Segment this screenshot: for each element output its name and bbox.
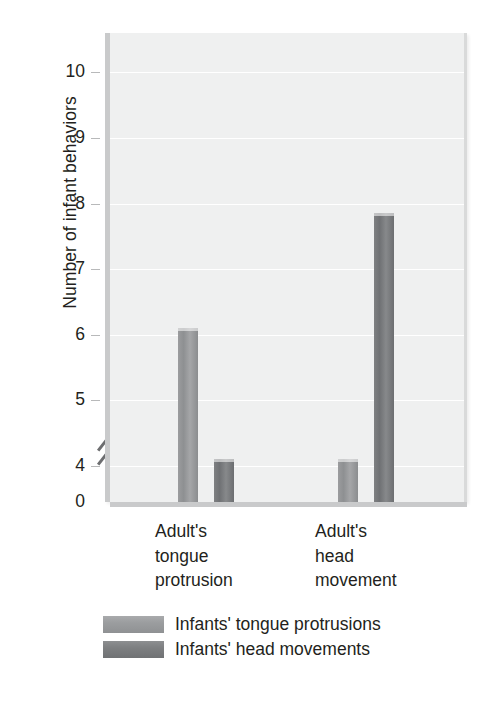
y-axis-tickmark (91, 269, 100, 270)
y-axis-tick-label: 5 (27, 389, 85, 410)
x-axis-group-label: Adult's head movement (315, 519, 397, 593)
bar (374, 213, 394, 502)
legend-label-series-b: Infants' head movements (175, 639, 370, 660)
gridline (110, 72, 467, 73)
bar-highlight (178, 328, 198, 331)
y-axis-tickmark (91, 335, 100, 336)
bar-highlight (338, 459, 358, 462)
bar (214, 459, 234, 502)
plot-inner (110, 33, 467, 502)
gridline (110, 204, 467, 205)
gridline (110, 269, 467, 270)
gridline (110, 400, 467, 401)
y-axis-tick-label: 0 (27, 491, 85, 512)
y-axis-tickmark (91, 72, 100, 73)
y-axis-tick-label: 6 (27, 324, 85, 345)
y-axis-tick-label: 8 (27, 193, 85, 214)
y-axis-tick-label: 10 (27, 61, 85, 82)
bar-highlight (214, 459, 234, 462)
legend: Infants' tongue protrusions Infants' hea… (103, 612, 381, 662)
y-axis-tick-label: 7 (27, 258, 85, 279)
bar-highlight (374, 213, 394, 216)
legend-item: Infants' tongue protrusions (103, 612, 381, 637)
y-axis-tick-label: 4 (27, 455, 85, 476)
legend-swatch-series-a (103, 616, 164, 633)
y-axis-tickmark (91, 204, 100, 205)
x-axis-group-label: Adult's tongue protrusion (155, 519, 233, 593)
bar (178, 328, 198, 502)
y-axis-tickmark (91, 400, 100, 401)
y-axis-tick-label: 9 (27, 127, 85, 148)
bar-chart-figure: Number of infant behaviors 109876540 Adu… (0, 0, 485, 704)
gridline (110, 466, 467, 467)
gridline (110, 335, 467, 336)
legend-item: Infants' head movements (103, 637, 381, 662)
bar (338, 459, 358, 502)
y-axis-tickmark (91, 138, 100, 139)
plot-area (105, 33, 467, 502)
legend-swatch-series-b (103, 641, 164, 658)
legend-label-series-a: Infants' tongue protrusions (175, 614, 381, 635)
plot-right-edge (464, 33, 467, 502)
gridline (110, 138, 467, 139)
plot-bottom-edge (110, 502, 467, 507)
